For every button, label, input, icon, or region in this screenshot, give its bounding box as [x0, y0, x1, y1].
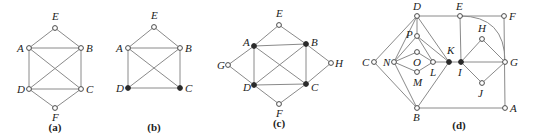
edge-c-E-B — [279, 25, 306, 44]
panel-caption-c: (c) — [273, 117, 286, 130]
nodes-layer — [27, 14, 508, 111]
node-d-O — [415, 50, 420, 55]
node-d-E — [458, 14, 463, 19]
edge-d-P-K — [417, 36, 449, 62]
node-label-d-O: O — [413, 56, 421, 68]
node-label-d-K: K — [446, 44, 455, 56]
node-label-d-P: P — [405, 28, 413, 40]
edge-d-E-I — [460, 16, 461, 62]
panel-caption-a: (a) — [49, 121, 62, 134]
node-b-A — [126, 46, 131, 51]
node-c-H — [329, 61, 334, 66]
edge-b-E-B — [154, 27, 180, 48]
node-a-B — [79, 46, 84, 51]
node-c-E — [277, 23, 282, 28]
edge-c-C-F — [279, 84, 306, 104]
node-d-F — [502, 14, 507, 19]
node-label-d-N: N — [382, 56, 391, 68]
node-label-d-J: J — [478, 87, 484, 99]
node-d-D — [415, 14, 420, 19]
edge-d-H-G — [482, 39, 505, 62]
node-a-F — [53, 106, 58, 111]
node-label-b-C: C — [185, 82, 193, 94]
node-label-d-I: I — [457, 66, 463, 78]
edge-d-I-J — [461, 62, 482, 83]
edge-c-H-C — [306, 63, 331, 84]
node-label-a-D: D — [16, 83, 25, 95]
node-d-M — [415, 70, 420, 75]
node-label-b-D: D — [115, 82, 124, 94]
node-label-c-E: E — [275, 7, 283, 19]
edge-c-G-A — [228, 46, 254, 65]
node-b-E — [152, 25, 157, 30]
node-label-c-D: D — [242, 81, 251, 93]
node-d-C — [372, 60, 377, 65]
node-d-J — [480, 81, 485, 86]
node-d-G — [503, 60, 508, 65]
edge-d-J-G — [482, 62, 505, 83]
node-label-d-B: B — [413, 111, 420, 123]
node-label-d-L: L — [429, 66, 436, 78]
node-a-D — [27, 87, 32, 92]
node-b-C — [178, 86, 183, 91]
edge-c-E-A — [254, 25, 279, 46]
node-label-d-D: D — [412, 0, 421, 12]
node-d-B — [415, 106, 420, 111]
node-d-A — [503, 106, 508, 111]
node-label-a-C: C — [86, 83, 94, 95]
node-a-C — [79, 87, 84, 92]
node-d-L — [431, 60, 436, 65]
node-label-a-B: B — [86, 42, 93, 54]
node-d-N — [392, 60, 397, 65]
edge-a-D-F — [29, 89, 55, 108]
node-b-D — [126, 86, 131, 91]
node-d-H — [480, 37, 485, 42]
node-label-a-A: A — [16, 42, 24, 54]
node-d-P — [415, 34, 420, 39]
edge-c-A-B — [254, 44, 306, 46]
panel-caption-b: (b) — [147, 121, 161, 134]
node-d-K — [447, 60, 452, 65]
node-c-C — [304, 82, 309, 87]
panel-caption-d: (d) — [452, 119, 466, 132]
node-c-A — [252, 44, 257, 49]
node-label-d-M: M — [412, 76, 423, 88]
node-label-d-H: H — [477, 22, 487, 34]
node-label-c-B: B — [311, 36, 318, 48]
node-c-G — [226, 63, 231, 68]
edge-b-E-A — [128, 27, 154, 48]
node-label-b-B: B — [185, 42, 192, 54]
node-label-d-E: E — [455, 0, 463, 12]
node-d-I — [459, 60, 464, 65]
node-a-E — [53, 26, 58, 31]
node-label-d-C: C — [362, 56, 370, 68]
labels-layer: EABDCF(a)EABDC(b)EABGHDCF(c)DEFPOCNLKIHG… — [16, 0, 518, 134]
node-label-a-E: E — [51, 10, 59, 22]
node-label-b-E: E — [150, 9, 158, 21]
edge-a-C-F — [55, 89, 81, 108]
node-label-b-A: A — [115, 42, 123, 54]
node-label-c-A: A — [242, 36, 250, 48]
edge-a-E-A — [29, 28, 55, 48]
edge-c-H-B — [306, 44, 331, 63]
node-label-c-H: H — [334, 57, 344, 69]
node-label-c-C: C — [311, 81, 319, 93]
edge-c-D-C — [254, 84, 306, 85]
node-b-B — [178, 46, 183, 51]
edge-c-D-F — [254, 85, 279, 104]
edge-a-E-B — [55, 28, 81, 48]
graph-figure: EABDCF(a)EABDC(b)EABGHDCF(c)DEFPOCNLKIHG… — [0, 0, 533, 140]
edge-d-I-H — [461, 39, 482, 62]
node-a-A — [27, 46, 32, 51]
node-c-D — [252, 83, 257, 88]
node-c-B — [304, 42, 309, 47]
node-c-F — [277, 102, 282, 107]
node-label-d-A: A — [509, 102, 517, 114]
node-label-d-F: F — [508, 10, 516, 22]
node-label-c-G: G — [217, 59, 225, 71]
node-label-d-G: G — [510, 56, 518, 68]
